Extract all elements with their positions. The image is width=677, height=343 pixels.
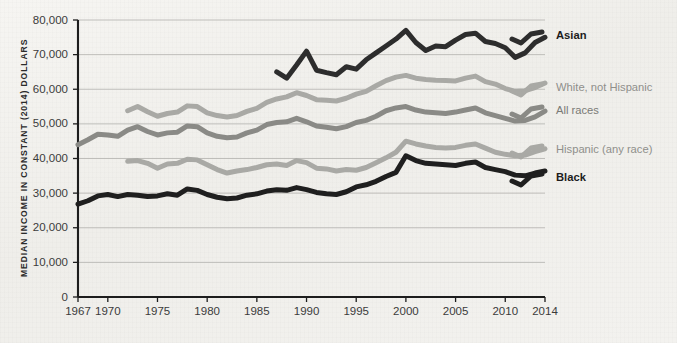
y-tick-label: 20,000 xyxy=(33,221,68,233)
x-tick-label: 1985 xyxy=(244,305,270,317)
x-tick-label: 2000 xyxy=(393,305,419,317)
y-tick-label: 50,000 xyxy=(33,117,68,129)
y-tick-label: 80,000 xyxy=(33,14,68,26)
y-tick-label: 30,000 xyxy=(33,187,68,199)
legend: AsianWhite, not HispanicAll racesHispani… xyxy=(512,29,653,185)
legend-label: All races xyxy=(556,104,599,116)
x-tick-label: 1975 xyxy=(145,305,171,317)
y-axis-title: MEDIAN INCOME IN CONSTANT (2014) DOLLARS xyxy=(19,39,29,277)
data-series xyxy=(78,30,545,204)
x-tick-label: 1980 xyxy=(194,305,220,317)
legend-label: Hispanic (any race) xyxy=(556,143,653,155)
y-tick-label: 0 xyxy=(62,291,68,303)
legend-label: Black xyxy=(556,171,587,183)
x-tick-label: 1995 xyxy=(343,305,369,317)
x-tick-label: 2014 xyxy=(532,305,558,317)
chart-container: 010,00020,00030,00040,00050,00060,00070,… xyxy=(0,0,677,343)
y-tick-label: 10,000 xyxy=(33,256,68,268)
x-tick-label: 2010 xyxy=(492,305,518,317)
y-tick-label: 60,000 xyxy=(33,83,68,95)
legend-label: Asian xyxy=(556,29,587,41)
x-tick-label: 1990 xyxy=(294,305,320,317)
income-line-chart: 010,00020,00030,00040,00050,00060,00070,… xyxy=(0,0,677,343)
y-tick-label: 40,000 xyxy=(33,152,68,164)
legend-label: White, not Hispanic xyxy=(556,81,653,93)
y-tick-label: 70,000 xyxy=(33,48,68,60)
x-axis-ticks: 1967197019751980198519901995200020052010… xyxy=(65,297,558,317)
x-tick-label: 2005 xyxy=(443,305,469,317)
x-tick-label: 1970 xyxy=(95,305,121,317)
x-tick-label: 1967 xyxy=(65,305,91,317)
y-axis-ticks: 010,00020,00030,00040,00050,00060,00070,… xyxy=(33,14,78,303)
